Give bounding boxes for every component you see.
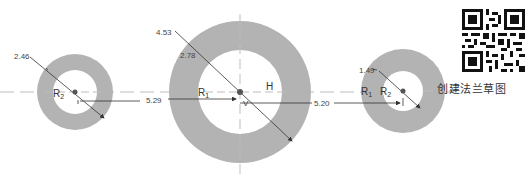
middle-flange[interactable]: 4.53 2.78 R1 H V [156,14,311,176]
middle-outer-diameter-label[interactable]: 4.53 [156,28,172,37]
right-center-point[interactable] [401,89,406,94]
middle-inner-diameter-label[interactable]: 2.78 [180,51,196,60]
distance-label-middle-right[interactable]: 5.20 [314,99,330,108]
middle-center-point[interactable] [237,89,243,95]
vertical-constraint-label[interactable]: V [243,99,249,108]
caption-create-flange-sketch: 创建法兰草图 [437,80,506,96]
right-diameter-label[interactable]: 1.49 [359,66,375,75]
horizontal-constraint-label[interactable]: H [266,81,273,92]
distance-label-left-middle[interactable]: 5.29 [146,96,162,105]
left-diameter-label[interactable]: 2.46 [14,52,30,61]
left-flange[interactable]: 2.46 R2 [14,52,113,130]
left-center-point[interactable] [73,90,78,95]
qr-code-image [462,8,525,72]
